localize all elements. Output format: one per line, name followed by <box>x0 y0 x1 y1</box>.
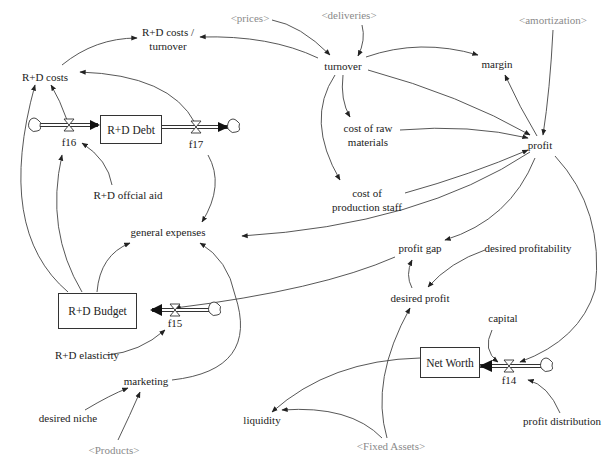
cloud-source-icon <box>29 118 41 132</box>
var-profit[interactable]: profit <box>528 138 552 152</box>
var-rd-official-aid[interactable]: R+D offcial aid <box>94 188 163 202</box>
var-desired-profitability[interactable]: desired profitability <box>484 241 571 255</box>
diagram-arrows <box>0 0 610 460</box>
var-desired-niche[interactable]: desired niche <box>39 411 97 425</box>
shadow-var-deliveries[interactable]: <deliveries> <box>321 8 376 22</box>
shadow-var-amortization[interactable]: <amortization> <box>519 13 587 27</box>
var-cost-of-raw-materials[interactable]: cost of raw materials <box>344 121 393 149</box>
var-marketing[interactable]: marketing <box>124 374 169 388</box>
stock-net-worth[interactable]: Net Worth <box>420 347 480 378</box>
var-profit-gap[interactable]: profit gap <box>398 241 441 255</box>
var-margin[interactable]: margin <box>482 57 513 71</box>
cloud-source-icon <box>209 302 221 316</box>
var-rd-elasticity[interactable]: R+D elasticity <box>55 348 119 362</box>
var-cost-of-production-staff[interactable]: cost of production staff <box>332 186 402 214</box>
flow-f15-label[interactable]: f15 <box>168 316 183 330</box>
var-capital[interactable]: capital <box>488 311 517 325</box>
var-profit-distribution[interactable]: profit distribution <box>523 414 601 428</box>
flow-f16-label[interactable]: f16 <box>62 135 77 149</box>
var-rd-costs-turnover[interactable]: R+D costs / turnover <box>142 25 194 53</box>
shadow-var-fixed-assets[interactable]: <Fixed Assets> <box>357 439 425 453</box>
shadow-var-products[interactable]: <Products> <box>89 443 140 457</box>
stock-rd-budget[interactable]: R+D Budget <box>58 293 137 329</box>
var-desired-profit[interactable]: desired profit <box>391 291 450 305</box>
var-rd-costs[interactable]: R+D costs <box>22 70 68 84</box>
stock-rd-debt[interactable]: R+D Debt <box>100 115 162 144</box>
stock-flow-diagram: R+D Debt R+D Budget Net Worth f16 f17 f1… <box>0 0 610 460</box>
flow-f14-label[interactable]: f14 <box>502 373 517 387</box>
flow-f17-label[interactable]: f17 <box>189 137 204 151</box>
cloud-sink-icon <box>228 119 240 133</box>
shadow-var-prices[interactable]: <prices> <box>231 11 270 25</box>
flow-pipes <box>38 120 542 372</box>
var-liquidity[interactable]: liquidity <box>243 413 280 427</box>
cloud-source-icon <box>541 358 553 372</box>
var-general-expenses[interactable]: general expenses <box>131 225 206 239</box>
var-turnover[interactable]: turnover <box>324 59 361 73</box>
